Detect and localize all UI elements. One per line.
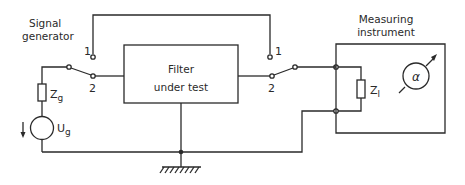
meter-symbol: α bbox=[412, 70, 420, 84]
ground-junction bbox=[179, 150, 184, 155]
zl-label: Zl bbox=[370, 84, 380, 99]
left-switch-arm bbox=[71, 68, 91, 75]
filter-under-test: Filter under test bbox=[124, 45, 238, 103]
zg-label: Zg bbox=[50, 88, 63, 103]
signal-generator-label-line2: generator bbox=[22, 30, 75, 42]
measuring-instrument: Zl α Measuring instrument bbox=[334, 13, 445, 133]
zl-resistor bbox=[357, 80, 365, 98]
right-switch-pivot bbox=[293, 65, 297, 69]
left-switch-label-2: 2 bbox=[89, 82, 96, 95]
zg-resistor bbox=[38, 84, 46, 101]
left-switch-contact-1 bbox=[91, 55, 95, 59]
ug-voltage-source bbox=[31, 117, 54, 140]
signal-generator-label-line1: Signal bbox=[29, 17, 61, 29]
left-switch-pivot bbox=[67, 65, 71, 69]
return-wire bbox=[42, 103, 334, 167]
filter-label-line1: Filter bbox=[168, 63, 195, 75]
right-switch: 1 2 bbox=[268, 45, 297, 95]
ground-icon bbox=[160, 167, 201, 173]
right-switch-contact-1 bbox=[268, 55, 272, 59]
left-switch-label-1: 1 bbox=[84, 45, 91, 58]
signal-generator-branch: Zg Ug bbox=[21, 67, 71, 152]
right-switch-label-1: 1 bbox=[275, 45, 282, 58]
filter-label-line2: under test bbox=[154, 81, 208, 93]
filter-test-circuit-diagram: 1 2 Zg Ug Signal generator Filter under … bbox=[0, 0, 465, 185]
instrument-label-line2: instrument bbox=[357, 26, 415, 38]
left-switch-contact-2 bbox=[91, 74, 95, 78]
ug-label: Ug bbox=[57, 122, 71, 137]
right-switch-contact-2 bbox=[270, 74, 274, 78]
bypass-wire bbox=[93, 15, 270, 54]
right-switch-label-2: 2 bbox=[268, 82, 275, 95]
right-switch-arm bbox=[274, 68, 293, 75]
instrument-label-line1: Measuring bbox=[359, 13, 414, 25]
left-switch: 1 2 bbox=[67, 45, 96, 95]
